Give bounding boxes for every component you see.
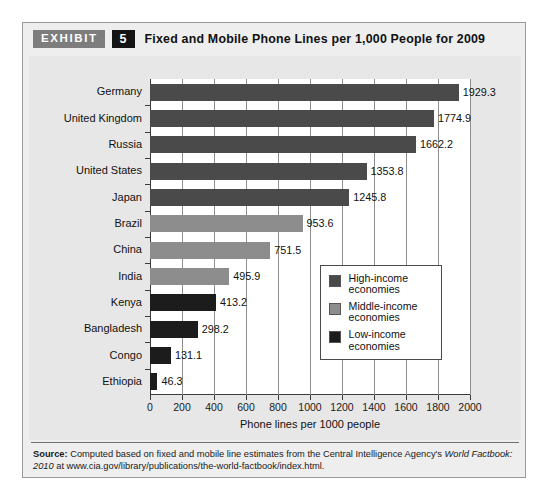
legend-item: High-income economies bbox=[329, 273, 432, 296]
bar bbox=[150, 84, 459, 101]
bar-value-label: 46.3 bbox=[157, 373, 182, 390]
y-axis-tick bbox=[145, 237, 150, 238]
legend-swatch bbox=[329, 331, 341, 343]
bar bbox=[150, 136, 416, 153]
exhibit-header: EXHIBIT 5 Fixed and Mobile Phone Lines p… bbox=[23, 23, 525, 55]
exhibit-number-badge: 5 bbox=[112, 30, 135, 49]
x-axis-tick bbox=[438, 395, 439, 400]
x-axis-tick bbox=[342, 395, 343, 400]
y-axis-tick bbox=[145, 342, 150, 343]
bar-value-label: 953.6 bbox=[303, 215, 334, 232]
legend: High-income economiesMiddle-income econo… bbox=[320, 265, 442, 361]
legend-item: Low-income economies bbox=[329, 329, 432, 352]
category-label: Japan bbox=[112, 191, 142, 203]
chart-panel: 0200400600800100012001400160018002000 19… bbox=[29, 56, 521, 440]
x-axis-tick bbox=[278, 395, 279, 400]
y-axis-tick bbox=[145, 211, 150, 212]
x-axis-tick-label: 1000 bbox=[298, 401, 321, 413]
y-axis-tick bbox=[145, 263, 150, 264]
bar bbox=[150, 294, 216, 311]
x-axis-tick bbox=[150, 395, 151, 400]
y-axis-tick bbox=[145, 158, 150, 159]
x-axis-tick-label: 1400 bbox=[362, 401, 385, 413]
bar bbox=[150, 347, 171, 364]
y-axis-tick bbox=[145, 184, 150, 185]
y-axis-tick bbox=[145, 290, 150, 291]
exhibit-title: Fixed and Mobile Phone Lines per 1,000 P… bbox=[145, 32, 486, 46]
x-axis-tick bbox=[182, 395, 183, 400]
exhibit-badge: EXHIBIT bbox=[33, 30, 105, 48]
x-axis-tick-label: 800 bbox=[269, 401, 287, 413]
x-axis-tick bbox=[374, 395, 375, 400]
category-label: Bangladesh bbox=[84, 322, 142, 334]
y-axis-tick bbox=[145, 369, 150, 370]
x-axis-tick-label: 1200 bbox=[330, 401, 353, 413]
bar-value-label: 751.5 bbox=[270, 242, 301, 259]
category-label: United Kingdom bbox=[64, 112, 142, 124]
bar bbox=[150, 215, 303, 232]
category-label: Brazil bbox=[114, 217, 142, 229]
bar bbox=[150, 189, 349, 206]
bar-value-label: 1774.9 bbox=[434, 110, 471, 127]
y-axis-tick bbox=[145, 132, 150, 133]
legend-label: Middle-income economies bbox=[349, 301, 418, 324]
x-axis-tick bbox=[246, 395, 247, 400]
x-axis-tick bbox=[406, 395, 407, 400]
category-label: Kenya bbox=[111, 296, 142, 308]
bar bbox=[150, 321, 198, 338]
x-axis-title: Phone lines per 1000 people bbox=[150, 418, 470, 430]
legend-item: Middle-income economies bbox=[329, 301, 432, 324]
x-axis-tick-label: 0 bbox=[147, 401, 153, 413]
bar-value-label: 1245.8 bbox=[349, 189, 386, 206]
category-label: Germany bbox=[97, 85, 142, 97]
legend-swatch bbox=[329, 275, 341, 287]
x-axis-tick bbox=[470, 395, 471, 400]
bar-value-label: 495.9 bbox=[229, 268, 260, 285]
y-axis-tick bbox=[145, 105, 150, 106]
source-note: Source: Computed based on fixed and mobi… bbox=[33, 448, 519, 473]
bar-value-label: 298.2 bbox=[198, 321, 229, 338]
category-label: India bbox=[118, 270, 142, 282]
category-label: China bbox=[113, 243, 142, 255]
bar bbox=[150, 373, 157, 390]
x-axis-tick-label: 1600 bbox=[394, 401, 417, 413]
bar bbox=[150, 242, 270, 259]
bar-value-label: 131.1 bbox=[171, 347, 202, 364]
x-axis-tick-label: 2000 bbox=[458, 401, 481, 413]
bar-value-label: 1929.3 bbox=[459, 84, 496, 101]
source-divider bbox=[31, 442, 519, 443]
x-axis-tick-label: 400 bbox=[205, 401, 223, 413]
category-label: Congo bbox=[110, 349, 142, 361]
bar-value-label: 413.2 bbox=[216, 294, 247, 311]
bar bbox=[150, 110, 434, 127]
exhibit-frame: EXHIBIT 5 Fixed and Mobile Phone Lines p… bbox=[22, 22, 526, 478]
category-label: Ethiopia bbox=[102, 375, 142, 387]
bar bbox=[150, 163, 367, 180]
legend-label: High-income economies bbox=[349, 273, 408, 296]
x-axis-tick-label: 600 bbox=[237, 401, 255, 413]
x-axis-tick bbox=[214, 395, 215, 400]
y-axis-tick bbox=[145, 316, 150, 317]
x-axis-tick-label: 200 bbox=[173, 401, 191, 413]
bar-value-label: 1353.8 bbox=[367, 163, 404, 180]
legend-label: Low-income economies bbox=[349, 329, 406, 352]
legend-swatch bbox=[329, 303, 341, 315]
category-label: Russia bbox=[108, 138, 142, 150]
x-axis-tick-label: 1800 bbox=[426, 401, 449, 413]
bar-value-label: 1662.2 bbox=[416, 136, 453, 153]
bar bbox=[150, 268, 229, 285]
category-label: United States bbox=[76, 164, 142, 176]
x-axis-tick bbox=[310, 395, 311, 400]
